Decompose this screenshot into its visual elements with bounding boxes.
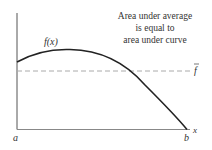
- x-axis-label: x: [192, 125, 197, 135]
- function-curve: [17, 49, 187, 129]
- average-value-diagram: f(x) f x a b Area under average is equal…: [0, 0, 212, 150]
- annotation-line-1: Area under average: [118, 11, 192, 21]
- left-bound-label: a: [13, 132, 18, 143]
- average-label: f: [194, 65, 198, 76]
- right-bound-label: b: [184, 132, 189, 143]
- curve-label: f(x): [44, 36, 59, 48]
- annotation-line-3: area under curve: [123, 35, 186, 45]
- annotation-line-2: is equal to: [135, 23, 174, 33]
